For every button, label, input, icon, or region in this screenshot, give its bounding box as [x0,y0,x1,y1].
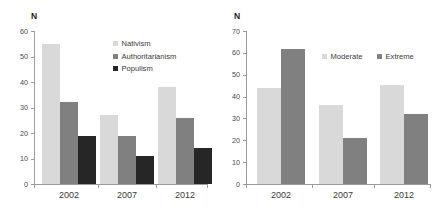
left-ytick-mark [31,82,34,83]
legend-label: Extreme [386,53,414,61]
right-chart-legend: Moderate Extreme [322,45,424,63]
bar-moderate-2012 [380,85,404,185]
right-y-axis-line [246,31,247,184]
right-ytick-mark [243,31,246,32]
legend-item-populism: Populism [113,65,176,73]
bar-authoritarianism-2012 [176,118,194,184]
left-ytick-label: 60 [12,28,28,35]
bar-authoritarianism-2007 [118,136,136,185]
legend-label: Nativism [122,40,151,48]
right-xtick-label: 2002 [259,191,303,200]
legend-item-nativism: Nativism [113,40,176,48]
legend-swatch-icon [377,54,382,59]
left-xtick-label: 2012 [163,191,207,200]
left-chart-panel: N 60 50 40 30 20 10 0 [0,0,219,218]
bar-extreme-2007 [343,138,367,184]
left-chart-legend: Nativism Authoritarianism Populism [113,40,176,78]
legend-label: Authoritarianism [122,53,177,61]
bar-moderate-2007 [319,105,343,184]
legend-swatch-icon [113,66,118,71]
legend-swatch-icon [113,41,118,46]
bar-extreme-2012 [404,114,428,184]
bar-moderate-2002 [257,88,281,184]
right-xtick-label: 2012 [382,191,426,200]
left-ytick-mark [31,133,34,134]
right-ytick-mark [243,53,246,54]
left-ytick-mark [31,159,34,160]
legend-swatch-icon [322,54,327,59]
bar-extreme-2002 [281,49,305,185]
figure-root: N 60 50 40 30 20 10 0 [0,0,438,218]
right-ytick-label: 30 [224,115,240,122]
bar-populism-2007 [136,156,154,184]
left-ytick-mark [31,57,34,58]
right-xtick-label: 2007 [321,191,365,200]
left-ytick-label: 50 [12,53,28,60]
bar-authoritarianism-2002 [60,102,78,184]
legend-label: Moderate [331,53,363,61]
legend-item-extreme: Extreme [377,53,414,61]
left-ytick-label: 20 [12,130,28,137]
right-x-axis-line [246,184,431,185]
left-y-axis-line [34,31,35,184]
right-xtick-divider [430,185,431,188]
left-xtick-divider [34,185,35,188]
right-xtick-divider [246,185,247,188]
left-ytick-label: 10 [12,155,28,162]
left-ytick-mark [31,31,34,32]
left-ytick-mark [31,108,34,109]
right-chart-panel: N 70 60 50 40 30 20 10 0 2002 2007 201 [219,0,438,218]
right-ytick-label: 40 [224,93,240,100]
left-ytick-label: 30 [12,104,28,111]
right-ytick-mark [243,140,246,141]
legend-item-moderate: Moderate [322,53,363,61]
right-xtick-divider [374,185,375,188]
left-x-axis-line [34,184,208,185]
right-ytick-label: 0 [224,181,240,188]
bar-nativism-2002 [42,44,60,184]
bar-populism-2002 [78,136,96,185]
legend-swatch-icon [113,54,118,59]
bar-nativism-2012 [158,87,176,184]
legend-label: Populism [122,65,153,73]
right-ytick-mark [243,162,246,163]
right-ytick-label: 60 [224,49,240,56]
right-ytick-mark [243,118,246,119]
right-ytick-label: 50 [224,71,240,78]
right-ytick-label: 10 [224,159,240,166]
bar-populism-2012 [194,148,212,184]
left-ytick-label: 0 [12,181,28,188]
left-xtick-divider [98,185,99,188]
right-ytick-mark [243,97,246,98]
right-xtick-divider [312,185,313,188]
left-xtick-label: 2002 [47,191,91,200]
left-xtick-label: 2007 [105,191,149,200]
legend-item-authoritarianism: Authoritarianism [113,53,176,61]
right-ytick-label: 70 [224,28,240,35]
right-y-axis-title: N [234,11,240,21]
left-xtick-divider [156,185,157,188]
left-ytick-label: 40 [12,79,28,86]
right-ytick-mark [243,75,246,76]
left-y-axis-title: N [31,11,37,21]
bar-nativism-2007 [100,115,118,184]
left-xtick-divider [207,185,208,188]
right-ytick-label: 20 [224,137,240,144]
